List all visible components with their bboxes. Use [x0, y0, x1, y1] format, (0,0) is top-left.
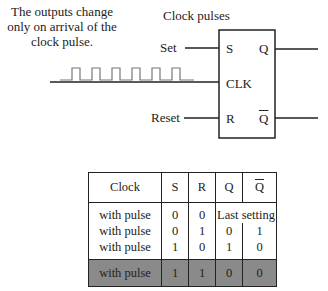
header-qbar: Q: [243, 173, 277, 203]
last-setting-cell: Last setting: [216, 203, 277, 224]
highlight-row: with pulse 1 1 0 0: [89, 260, 277, 287]
r-pin: R: [226, 111, 235, 127]
q-pin: Q: [259, 41, 268, 57]
clk-pin: CLK: [226, 76, 252, 92]
header-r: R: [189, 173, 216, 203]
table-row: with pulse 1 0 1 0: [89, 239, 277, 260]
s-pin: S: [226, 41, 233, 57]
header-s: S: [162, 173, 189, 203]
clock-pulse-train: [60, 68, 194, 80]
set-label: Set: [160, 40, 177, 56]
reset-label: Reset: [151, 110, 180, 126]
truth-table: Clock S R Q Q with pulse 0 0 Last settin…: [88, 172, 277, 287]
table-row: with pulse 0 0 Last setting: [89, 203, 277, 224]
header-q: Q: [216, 173, 243, 203]
table-row: with pulse 0 1 0 1: [89, 223, 277, 239]
qbar-pin: Q: [259, 111, 268, 127]
header-clock: Clock: [89, 173, 162, 203]
